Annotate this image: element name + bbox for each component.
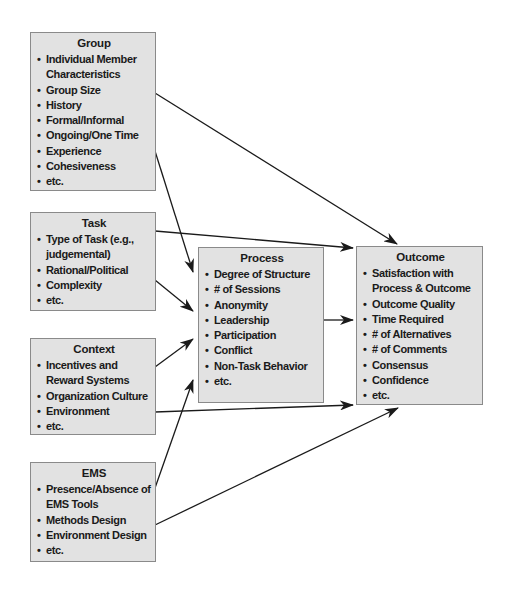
bullet-icon: • — [37, 52, 46, 67]
bullet-icon: • — [363, 373, 372, 388]
list-item: •Rational/Political — [37, 263, 151, 278]
bullet-icon: • — [205, 374, 214, 389]
bullet-icon: • — [363, 327, 372, 342]
list-item: •Time Required — [363, 312, 478, 327]
node-item-list: •Presence/Absence of EMS Tools •Methods … — [37, 482, 151, 558]
list-item: •etc. — [205, 374, 319, 389]
bullet-icon: • — [205, 343, 214, 358]
bullet-icon: • — [37, 543, 46, 558]
list-item: •History — [37, 98, 151, 113]
bullet-icon: • — [363, 312, 372, 327]
node-title: Context — [37, 342, 151, 357]
edge-task-process — [155, 280, 193, 311]
list-item: •Organization Culture — [37, 389, 151, 404]
bullet-icon: • — [37, 278, 46, 293]
list-item: •Environment Design — [37, 528, 151, 543]
bullet-icon: • — [363, 388, 372, 403]
list-item: •etc. — [363, 388, 478, 403]
bullet-icon: • — [37, 293, 46, 308]
list-item: •etc. — [37, 293, 151, 308]
list-item: •Satisfaction with Process & Outcome — [363, 266, 478, 297]
list-item: •Anonymity — [205, 298, 319, 313]
node-title: EMS — [37, 466, 151, 481]
list-item: •etc. — [37, 543, 151, 558]
list-item: •Cohesiveness — [37, 159, 151, 174]
bullet-icon: • — [37, 174, 46, 189]
list-item: •Non-Task Behavior — [205, 359, 319, 374]
bullet-icon: • — [363, 342, 372, 357]
bullet-icon: • — [37, 144, 46, 159]
edge-task-outcome — [155, 231, 353, 248]
bullet-icon: • — [37, 389, 46, 404]
node-title: Task — [37, 216, 151, 231]
bullet-icon: • — [205, 328, 214, 343]
bullet-icon: • — [205, 359, 214, 374]
list-item: •Consensus — [363, 358, 478, 373]
list-item: •etc. — [37, 174, 151, 189]
node-item-list: •Type of Task (e.g., judgemental) •Ratio… — [37, 232, 151, 308]
list-item: •Formal/Informal — [37, 113, 151, 128]
list-item: •Methods Design — [37, 513, 151, 528]
node-title: Process — [205, 251, 319, 266]
list-item: •Experience — [37, 144, 151, 159]
bullet-icon: • — [37, 159, 46, 174]
bullet-icon: • — [37, 419, 46, 434]
edge-group-process — [155, 151, 193, 272]
edge-ems-outcome — [155, 408, 398, 525]
bullet-icon: • — [37, 528, 46, 543]
list-item: •Degree of Structure — [205, 267, 319, 282]
edge-context-process — [155, 339, 193, 367]
list-item: •Confidence — [363, 373, 478, 388]
list-item: •Environment — [37, 404, 151, 419]
bullet-icon: • — [37, 404, 46, 419]
node-item-list: •Individual Member Characteristics •Grou… — [37, 52, 151, 190]
list-item: •# of Sessions — [205, 282, 319, 297]
list-item: •Complexity — [37, 278, 151, 293]
bullet-icon: • — [37, 232, 46, 247]
node-item-list: •Incentives and Reward Systems •Organiza… — [37, 358, 151, 434]
node-item-list: •Satisfaction with Process & Outcome •Ou… — [363, 266, 478, 404]
node-group: Group •Individual Member Characteristics… — [30, 32, 156, 191]
bullet-icon: • — [37, 358, 46, 373]
bullet-icon: • — [37, 83, 46, 98]
bullet-icon: • — [363, 266, 372, 281]
list-item: •Conflict — [205, 343, 319, 358]
node-item-list: •Degree of Structure •# of Sessions •Ano… — [205, 267, 319, 389]
list-item: •Ongoing/One Time — [37, 128, 151, 143]
node-context: Context •Incentives and Reward Systems •… — [30, 338, 156, 435]
edge-group-outcome — [155, 93, 397, 244]
bullet-icon: • — [37, 482, 46, 497]
node-title: Outcome — [363, 250, 478, 265]
bullet-icon: • — [205, 298, 214, 313]
list-item: •Incentives and Reward Systems — [37, 358, 151, 389]
list-item: •Leadership — [205, 313, 319, 328]
bullet-icon: • — [363, 358, 372, 373]
list-item: •Type of Task (e.g., judgemental) — [37, 232, 151, 263]
bullet-icon: • — [205, 313, 214, 328]
list-item: •# of Comments — [363, 342, 478, 357]
diagram-canvas: Group •Individual Member Characteristics… — [0, 0, 509, 591]
bullet-icon: • — [363, 297, 372, 312]
bullet-icon: • — [37, 263, 46, 278]
node-process: Process •Degree of Structure •# of Sessi… — [198, 247, 324, 403]
list-item: •Participation — [205, 328, 319, 343]
bullet-icon: • — [37, 513, 46, 528]
bullet-icon: • — [205, 282, 214, 297]
list-item: •# of Alternatives — [363, 327, 478, 342]
list-item: •Presence/Absence of EMS Tools — [37, 482, 151, 513]
node-outcome: Outcome •Satisfaction with Process & Out… — [356, 246, 483, 405]
list-item: •Outcome Quality — [363, 297, 478, 312]
bullet-icon: • — [37, 98, 46, 113]
bullet-icon: • — [37, 128, 46, 143]
node-task: Task •Type of Task (e.g., judgemental) •… — [30, 212, 156, 311]
node-title: Group — [37, 36, 151, 51]
edge-ems-process — [155, 380, 193, 488]
list-item: •Group Size — [37, 83, 151, 98]
bullet-icon: • — [205, 267, 214, 282]
list-item: •Individual Member Characteristics — [37, 52, 151, 83]
edge-context-outcome — [155, 405, 353, 412]
list-item: •etc. — [37, 419, 151, 434]
node-ems: EMS •Presence/Absence of EMS Tools •Meth… — [30, 462, 156, 562]
bullet-icon: • — [37, 113, 46, 128]
